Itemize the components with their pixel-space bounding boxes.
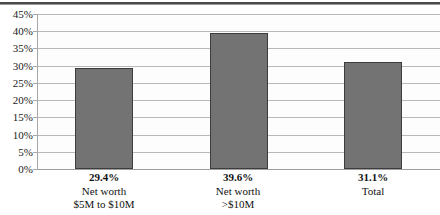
top-border-rule-thin <box>0 4 440 5</box>
y-axis-tick-label: 15% <box>0 112 33 123</box>
y-tick-mark <box>33 48 37 49</box>
y-tick-mark <box>33 31 37 32</box>
category-name-line: $5M to $10M <box>37 198 171 212</box>
y-tick-mark <box>33 152 37 153</box>
bar <box>210 33 268 169</box>
y-axis-tick-label: 40% <box>0 26 33 37</box>
y-axis-tick-label: 35% <box>0 43 33 54</box>
y-axis-tick-label: 5% <box>0 147 33 158</box>
y-tick-mark <box>33 66 37 67</box>
bar-data-label: 31.1% <box>306 171 440 185</box>
x-axis-category-label: 39.6%Net worth>$10M <box>171 171 305 212</box>
bar <box>75 68 133 169</box>
y-axis-tick-label: 25% <box>0 78 33 89</box>
y-tick-mark <box>33 14 37 15</box>
plot-area <box>37 14 440 169</box>
bar <box>344 62 402 169</box>
y-tick-mark <box>33 100 37 101</box>
y-tick-mark <box>33 135 37 136</box>
y-axis-tick-label: 30% <box>0 61 33 72</box>
gridline-45pct <box>37 14 440 15</box>
category-name-line: Net worth <box>171 185 305 199</box>
gridline-40pct <box>37 31 440 32</box>
x-axis-category-label: 31.1%Total <box>306 171 440 198</box>
y-tick-mark <box>33 83 37 84</box>
x-axis-category-label: 29.4%Net worth$5M to $10M <box>37 171 171 212</box>
bar-chart: 45%40%35%30%25%20%15%10%5%0% 29.4%Net wo… <box>0 0 440 215</box>
bar-data-label: 29.4% <box>37 171 171 185</box>
y-axis-tick-label: 20% <box>0 95 33 106</box>
category-name-line: Net worth <box>37 185 171 199</box>
y-axis-tick-label: 0% <box>0 164 33 175</box>
y-axis-tick-label: 10% <box>0 130 33 141</box>
y-axis-tick-label: 45% <box>0 9 33 20</box>
bar-data-label: 39.6% <box>171 171 305 185</box>
category-name-line: >$10M <box>171 198 305 212</box>
category-name-line: Total <box>306 185 440 199</box>
y-tick-mark <box>33 169 37 170</box>
gridline-0pct <box>37 169 440 170</box>
y-axis-line <box>37 14 38 170</box>
y-tick-mark <box>33 117 37 118</box>
